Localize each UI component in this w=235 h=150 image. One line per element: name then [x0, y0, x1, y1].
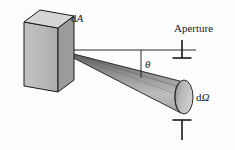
label-dA-symbol: A — [77, 12, 84, 24]
label-solid-angle-dOmega: dΩ — [196, 92, 209, 103]
cone-ridge-center — [58, 50, 184, 97]
cone-end-cap-ellipse — [175, 80, 193, 114]
radiation-cone — [58, 50, 193, 114]
aperture-tick-bottom — [173, 120, 192, 140]
label-surface-element-dA: dA — [71, 13, 83, 24]
surface-element-box — [24, 10, 74, 92]
physics-figure-radiation-solid-angle: dA Aperture θ dΩ — [0, 0, 235, 150]
label-dOmega-symbol: Ω — [202, 91, 210, 103]
box-side-face — [58, 16, 74, 92]
label-aperture: Aperture — [174, 23, 213, 34]
aperture-tick-top — [173, 40, 192, 58]
box-front-face — [24, 22, 58, 92]
label-angle-theta: θ — [145, 59, 150, 70]
